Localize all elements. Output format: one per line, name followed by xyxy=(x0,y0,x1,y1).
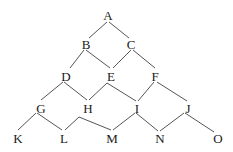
edge-h-i xyxy=(89,83,136,101)
node-f: F xyxy=(151,69,158,84)
edge-b-e xyxy=(86,50,110,68)
edge-i-n xyxy=(136,113,158,131)
node-j: J xyxy=(185,101,190,116)
node-a: A xyxy=(103,8,113,23)
node-e: E xyxy=(107,69,115,84)
node-i: I xyxy=(135,101,139,116)
node-b: B xyxy=(82,37,91,52)
node-m: M xyxy=(106,131,118,146)
edge-m-i xyxy=(113,113,135,130)
edge-f-j xyxy=(157,82,187,101)
edge-l-m xyxy=(65,117,111,130)
lattice-diagram: ABCDEFGHIJKLMNO xyxy=(0,0,233,152)
edge-d-h xyxy=(64,82,87,100)
node-o: O xyxy=(213,131,222,146)
edge-n-j xyxy=(160,113,184,131)
edge-c-f xyxy=(133,50,155,68)
edges-group xyxy=(18,22,214,132)
node-d: D xyxy=(61,69,70,84)
edge-b-d xyxy=(70,50,84,68)
edge-d-g xyxy=(41,82,63,100)
node-c: C xyxy=(127,37,136,52)
edge-a-b xyxy=(89,22,107,38)
node-l: L xyxy=(60,131,68,146)
node-k: K xyxy=(13,131,23,146)
edge-c-e xyxy=(113,50,131,68)
edge-g-k xyxy=(18,113,36,130)
node-h: H xyxy=(83,101,92,116)
edge-g-l xyxy=(37,113,62,130)
node-g: G xyxy=(36,101,45,116)
edge-j-o xyxy=(185,113,214,132)
node-n: N xyxy=(155,131,165,146)
edge-f-i xyxy=(138,82,154,101)
nodes-group: ABCDEFGHIJKLMNO xyxy=(13,8,222,146)
